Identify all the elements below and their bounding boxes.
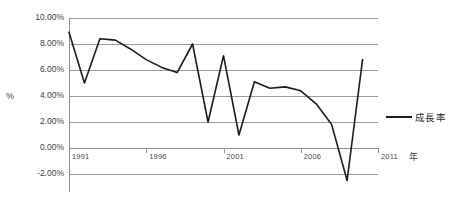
- chart-figure: % 10.00%8.00%6.00%4.00%2.00%0.00%-2.00% …: [0, 0, 465, 198]
- series-growth-rate: [0, 0, 465, 198]
- legend-label-growth-rate: 成長率: [415, 110, 446, 124]
- legend: 成長率: [386, 110, 446, 124]
- series-line-path: [69, 32, 363, 180]
- legend-swatch-growth-rate: [386, 116, 412, 118]
